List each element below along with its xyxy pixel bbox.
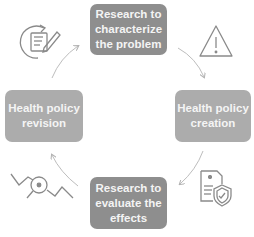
step-label-line: evaluate the — [95, 196, 161, 211]
arrow-left-to-top — [52, 46, 78, 78]
warning-triangle-icon — [200, 26, 232, 56]
medical-document-shield-icon — [201, 171, 231, 206]
arrow-bottom-to-left — [52, 155, 78, 186]
step-label-line: the problem — [95, 37, 162, 52]
document-edit-cycle-icon — [20, 25, 60, 58]
step-research-characterize: Research to characterize the problem — [90, 4, 167, 55]
step-label-line: Health policy — [177, 101, 249, 116]
step-label-line: creation — [177, 116, 249, 131]
arrow-top-to-right — [178, 48, 204, 77]
chart-magnifier-icon — [11, 174, 73, 198]
step-label-line: Research to — [95, 181, 161, 196]
step-health-policy-revision: Health policy revision — [5, 90, 83, 142]
step-label-line: Research to — [95, 7, 162, 22]
step-label-line: effects — [95, 211, 161, 226]
step-label-line: characterize — [95, 22, 162, 37]
step-label-line: revision — [8, 116, 80, 131]
step-health-policy-creation: Health policy creation — [175, 90, 251, 142]
step-label-line: Health policy — [8, 101, 80, 116]
arrow-right-to-bottom — [180, 151, 203, 184]
step-research-evaluate: Research to evaluate the effects — [90, 177, 167, 229]
